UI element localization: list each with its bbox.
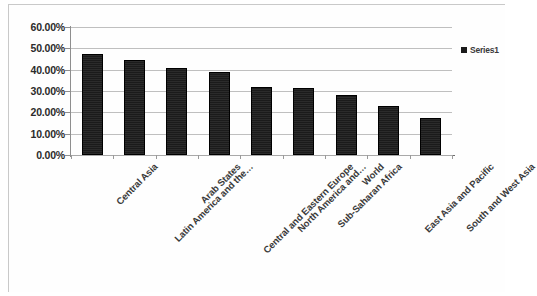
bar bbox=[166, 68, 187, 155]
bar bbox=[420, 118, 441, 155]
x-axis-tick bbox=[198, 155, 199, 159]
y-axis-tick-label: 0.00% bbox=[11, 149, 65, 161]
x-axis-category-label: Central Asia bbox=[114, 161, 160, 207]
legend-color-swatch-series1 bbox=[461, 47, 467, 53]
x-axis-category-label: South and West Asia bbox=[464, 161, 537, 234]
y-axis-tick bbox=[65, 134, 71, 135]
bar bbox=[209, 72, 230, 155]
y-axis-labels: 60.00%50.00%40.00%30.00%20.00%10.00%0.00… bbox=[9, 5, 65, 296]
bar bbox=[293, 88, 314, 155]
x-axis-category-label: Latin America and the… bbox=[172, 161, 255, 244]
bar bbox=[378, 106, 399, 155]
x-axis-category-label: North America and… bbox=[295, 161, 368, 234]
x-axis-category-label: East Asia and Pacific bbox=[422, 161, 496, 235]
y-axis-tick-label: 30.00% bbox=[11, 85, 65, 97]
gridline bbox=[71, 48, 452, 49]
x-axis-tick bbox=[113, 155, 114, 159]
bar bbox=[82, 54, 103, 155]
y-axis-tick-label: 60.00% bbox=[11, 21, 65, 33]
y-axis-tick-label: 10.00% bbox=[11, 128, 65, 140]
y-axis-tick-label: 40.00% bbox=[11, 64, 65, 76]
x-axis-tick bbox=[367, 155, 368, 159]
chart-container: 60.00%50.00%40.00%30.00%20.00%10.00%0.00… bbox=[8, 4, 505, 292]
y-axis-tick bbox=[65, 91, 71, 92]
x-axis-category-label: Sub-Saharan Africa bbox=[335, 161, 404, 230]
bar bbox=[251, 87, 272, 155]
x-axis-tick bbox=[283, 155, 284, 159]
x-axis-category-label: Arab States bbox=[198, 161, 242, 205]
legend-label-series1: Series1 bbox=[470, 45, 499, 55]
x-axis-tick bbox=[325, 155, 326, 159]
x-axis-category-label: World bbox=[360, 161, 386, 187]
y-axis-tick bbox=[65, 48, 71, 49]
y-axis-tick bbox=[65, 27, 71, 28]
plot-area bbox=[71, 27, 452, 155]
gridline bbox=[71, 27, 452, 28]
y-axis-tick bbox=[65, 112, 71, 113]
x-axis-tick bbox=[71, 155, 72, 159]
y-axis-tick-label: 20.00% bbox=[11, 106, 65, 118]
x-axis-tick bbox=[452, 155, 453, 159]
x-axis-tick bbox=[156, 155, 157, 159]
x-axis-category-label: Central and Eastern Europe bbox=[261, 161, 355, 255]
y-axis-tick-label: 50.00% bbox=[11, 42, 65, 54]
y-axis-tick bbox=[65, 70, 71, 71]
gridline bbox=[71, 155, 452, 156]
chart-legend: Series1 bbox=[461, 45, 499, 55]
x-axis-tick bbox=[410, 155, 411, 159]
x-axis-tick bbox=[240, 155, 241, 159]
bar bbox=[336, 95, 357, 155]
bar bbox=[124, 60, 145, 155]
